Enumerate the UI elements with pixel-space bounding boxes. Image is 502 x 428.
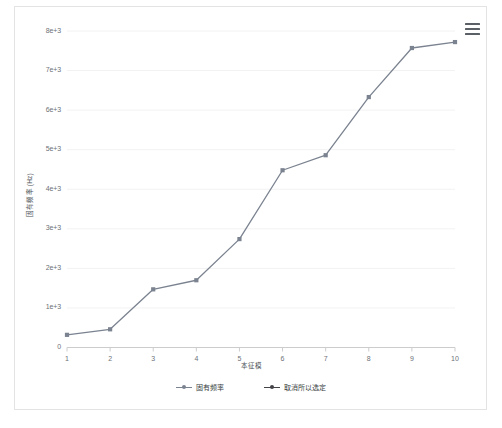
legend-marker-icon	[176, 383, 192, 391]
legend-item-label: 取消所以选定	[284, 384, 326, 391]
y-axis-title-label: 固有频率 (Hz)	[24, 173, 34, 217]
y-axis-tick-label: 0	[21, 343, 61, 350]
y-axis-tick-label: 5e+3	[21, 145, 61, 152]
x-axis-title: 本征模	[0, 360, 502, 370]
data-point-marker[interactable]	[194, 278, 198, 282]
x-axis-tick-label: 8	[357, 355, 381, 362]
y-axis-title: 固有频率 (Hz)	[22, 160, 36, 230]
data-point-marker[interactable]	[280, 168, 284, 172]
x-axis-tick-label: 3	[141, 355, 165, 362]
hamburger-line	[465, 33, 480, 35]
x-axis-tick-label: 10	[443, 355, 467, 362]
chart-legend: 固有频率取消所以选定	[0, 383, 502, 391]
hamburger-menu-icon[interactable]	[465, 23, 480, 35]
x-axis-title-label: 本征模	[241, 362, 262, 369]
data-point-marker[interactable]	[453, 40, 457, 44]
legend-item[interactable]: 固有频率	[176, 383, 224, 391]
y-axis-tick-label: 3e+3	[21, 224, 61, 231]
y-axis-tick-label: 7e+3	[21, 66, 61, 73]
legend-marker-icon	[264, 383, 280, 391]
data-point-marker[interactable]	[108, 327, 112, 331]
y-axis-tick-label: 2e+3	[21, 264, 61, 271]
x-axis-tick-label: 6	[271, 355, 295, 362]
legend-dot	[270, 385, 274, 389]
data-point-marker[interactable]	[367, 95, 371, 99]
data-point-marker[interactable]	[324, 153, 328, 157]
legend-dot	[182, 385, 186, 389]
series-markers-natural-frequency	[65, 40, 457, 337]
legend-item[interactable]: 取消所以选定	[264, 383, 326, 391]
x-axis-tick-label: 9	[400, 355, 424, 362]
data-point-marker[interactable]	[65, 333, 69, 337]
x-axis-tick-label: 7	[314, 355, 338, 362]
y-axis-tick-label: 4e+3	[21, 185, 61, 192]
y-axis-tick-label: 6e+3	[21, 106, 61, 113]
x-axis-tick-label: 2	[98, 355, 122, 362]
x-axis-tick-label: 4	[184, 355, 208, 362]
x-axis-tick-label: 1	[55, 355, 79, 362]
hamburger-line	[465, 23, 480, 25]
x-axis-tick-label: 5	[227, 355, 251, 362]
series-line-natural-frequency	[67, 42, 455, 335]
data-point-marker[interactable]	[237, 237, 241, 241]
data-point-marker[interactable]	[151, 287, 155, 291]
data-point-marker[interactable]	[410, 46, 414, 50]
x-axis-ticks	[67, 348, 455, 352]
y-axis-tick-label: 1e+3	[21, 303, 61, 310]
gridlines	[67, 31, 455, 308]
legend-item-label: 固有频率	[196, 384, 224, 391]
hamburger-line	[465, 28, 480, 30]
y-axis-tick-label: 8e+3	[21, 27, 61, 34]
